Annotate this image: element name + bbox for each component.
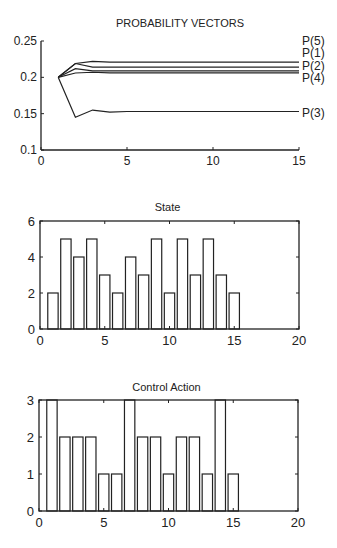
bar <box>86 437 96 511</box>
bar <box>163 474 173 511</box>
x-tick-label: 10 <box>162 333 176 348</box>
y-tick-label: 0.15 <box>14 107 38 121</box>
bar <box>113 293 123 329</box>
bar <box>87 239 97 329</box>
x-tick-label: 0 <box>38 154 45 168</box>
bar <box>125 257 135 329</box>
bar <box>177 239 187 329</box>
x-tick-label: 5 <box>101 333 108 348</box>
x-tick-label: 0 <box>35 515 42 530</box>
series-line-p3 <box>58 77 299 117</box>
bar <box>189 437 199 511</box>
x-tick-label: 15 <box>226 515 240 530</box>
y-tick-label: 0.1 <box>20 143 37 157</box>
x-tick-label: 5 <box>124 154 131 168</box>
x-tick-label: 20 <box>292 333 306 348</box>
bar <box>61 239 71 329</box>
bar <box>138 275 148 329</box>
y-tick-label: 6 <box>28 214 35 229</box>
bar <box>151 239 161 329</box>
y-tick-label: 3 <box>27 393 34 408</box>
series-label: P(3) <box>302 106 325 120</box>
bar <box>100 275 110 329</box>
x-tick-label: 15 <box>292 154 306 168</box>
bar <box>203 239 213 329</box>
y-tick-label: 2 <box>27 430 34 445</box>
bar <box>216 275 226 329</box>
bar <box>215 400 225 511</box>
y-tick-label: 0.25 <box>14 34 38 48</box>
bar <box>99 474 109 511</box>
x-tick-label: 10 <box>161 515 175 530</box>
y-tick-label: 0 <box>28 322 35 337</box>
x-tick-label: 5 <box>100 515 107 530</box>
chart-title: State <box>155 201 181 213</box>
bar <box>124 400 134 511</box>
bar <box>112 474 122 511</box>
series-line-p5 <box>58 61 299 77</box>
control-action-chart: Control Action012305101520 <box>27 381 305 530</box>
bar <box>176 437 186 511</box>
bar <box>164 293 174 329</box>
bar <box>47 400 57 511</box>
x-tick-label: 10 <box>206 154 220 168</box>
chart-title: Control Action <box>132 381 200 393</box>
bar <box>73 437 83 511</box>
series-label: P(1) <box>302 46 325 60</box>
bar <box>60 437 70 511</box>
state-chart: State024605101520 <box>28 201 306 348</box>
bar <box>229 293 239 329</box>
bar <box>137 437 147 511</box>
bar <box>74 257 84 329</box>
figure: PROBABILITY VECTORS0.10.150.20.25051015P… <box>0 0 337 548</box>
series-label: P(4) <box>302 71 325 85</box>
y-tick-label: 1 <box>27 467 34 482</box>
bar <box>190 275 200 329</box>
probability-vectors-chart: PROBABILITY VECTORS0.10.150.20.25051015P… <box>14 17 325 168</box>
bar <box>202 474 212 511</box>
y-tick-label: 2 <box>28 286 35 301</box>
bar <box>228 474 238 511</box>
y-tick-label: 4 <box>28 250 35 265</box>
bar <box>48 293 58 329</box>
bar <box>150 437 160 511</box>
series-line-p4 <box>58 72 299 77</box>
y-tick-label: 0.2 <box>20 70 37 84</box>
x-tick-label: 0 <box>36 333 43 348</box>
x-tick-label: 20 <box>291 515 305 530</box>
y-tick-label: 0 <box>27 504 34 519</box>
chart-title: PROBABILITY VECTORS <box>116 17 244 29</box>
x-tick-label: 15 <box>227 333 241 348</box>
